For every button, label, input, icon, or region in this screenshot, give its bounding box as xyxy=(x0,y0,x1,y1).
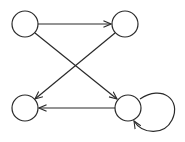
node-bottom-right xyxy=(115,95,141,121)
graph-diagram xyxy=(0,0,185,142)
node-bottom-left xyxy=(12,95,38,121)
node-top-left xyxy=(12,11,38,37)
node-top-right xyxy=(112,11,138,37)
